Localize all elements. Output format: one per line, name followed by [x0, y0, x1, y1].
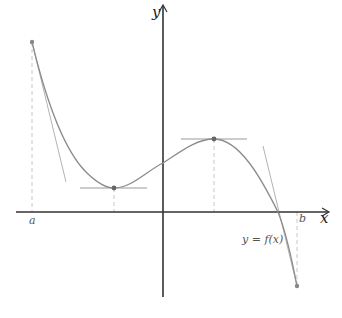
label-a: a — [29, 214, 36, 227]
point-local-max — [212, 137, 217, 142]
point-a — [30, 40, 34, 44]
point-local-min — [112, 186, 117, 191]
y-axis-label: y — [151, 3, 161, 21]
function-graph: y x a b y = f(x) — [0, 0, 342, 318]
function-label: y = f(x) — [241, 233, 283, 246]
x-axis-label: x — [320, 209, 329, 227]
point-b — [295, 284, 299, 288]
curve-f — [32, 42, 297, 286]
label-b: b — [299, 212, 306, 225]
